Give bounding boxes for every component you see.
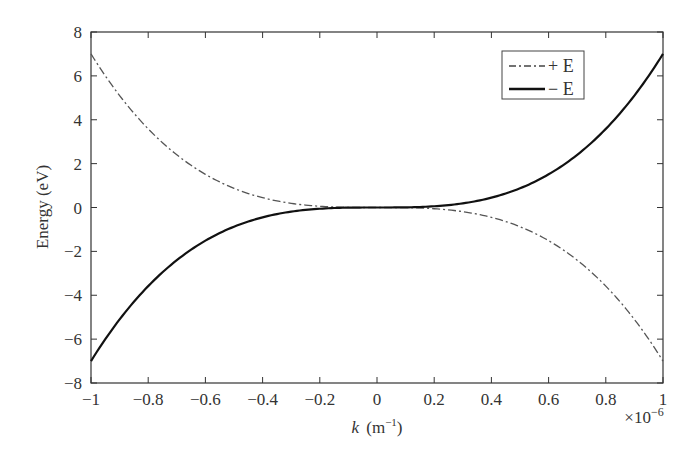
x-multiplier: ×10−6 bbox=[624, 405, 663, 427]
x-tick-label: −1 bbox=[82, 390, 100, 409]
x-tick-label: 0.6 bbox=[538, 390, 559, 409]
svg-text:k (m−1): k (m−1) bbox=[351, 416, 402, 437]
x-tick-label: −0.4 bbox=[247, 390, 278, 409]
curve-minus-e bbox=[91, 54, 663, 361]
x-axis-label: k (m−1) bbox=[351, 416, 402, 437]
y-tick-label: −6 bbox=[64, 330, 82, 349]
y-tick-label: 6 bbox=[74, 67, 83, 86]
y-tick-label: 0 bbox=[74, 199, 83, 218]
x-axis-unit: (m bbox=[366, 418, 385, 437]
x-tick-label: 0.2 bbox=[424, 390, 445, 409]
x-multiplier-base: ×10 bbox=[624, 408, 651, 427]
x-axis-unit-exp: −1 bbox=[385, 416, 397, 428]
legend-label-minus-e: − E bbox=[548, 79, 574, 99]
x-multiplier-exp: −6 bbox=[651, 405, 664, 419]
y-tick-label: 2 bbox=[74, 155, 83, 174]
x-tick-label: −0.6 bbox=[190, 390, 221, 409]
x-axis-unit-close: ) bbox=[397, 418, 403, 437]
x-tick-label: 0 bbox=[373, 390, 382, 409]
y-axis-label: Energy (eV) bbox=[33, 165, 52, 249]
x-tick-label: −0.8 bbox=[133, 390, 164, 409]
y-tick-label: −2 bbox=[64, 242, 82, 261]
energy-chart: −1−0.8−0.6−0.4−0.200.20.40.60.8186420−2−… bbox=[0, 0, 698, 463]
y-tick-label: 8 bbox=[74, 23, 83, 42]
legend: + E − E bbox=[502, 51, 584, 99]
svg-text:×10−6: ×10−6 bbox=[624, 405, 663, 427]
x-tick-label: −0.2 bbox=[304, 390, 335, 409]
x-tick-label: 0.4 bbox=[481, 390, 503, 409]
curves bbox=[91, 54, 663, 361]
y-tick-label: 4 bbox=[74, 111, 83, 130]
legend-label-plus-e: + E bbox=[548, 56, 574, 76]
y-tick-label: −4 bbox=[64, 286, 83, 305]
x-tick-label: 0.8 bbox=[595, 390, 616, 409]
x-axis-symbol: k bbox=[351, 418, 359, 437]
y-tick-label: −8 bbox=[64, 374, 82, 393]
